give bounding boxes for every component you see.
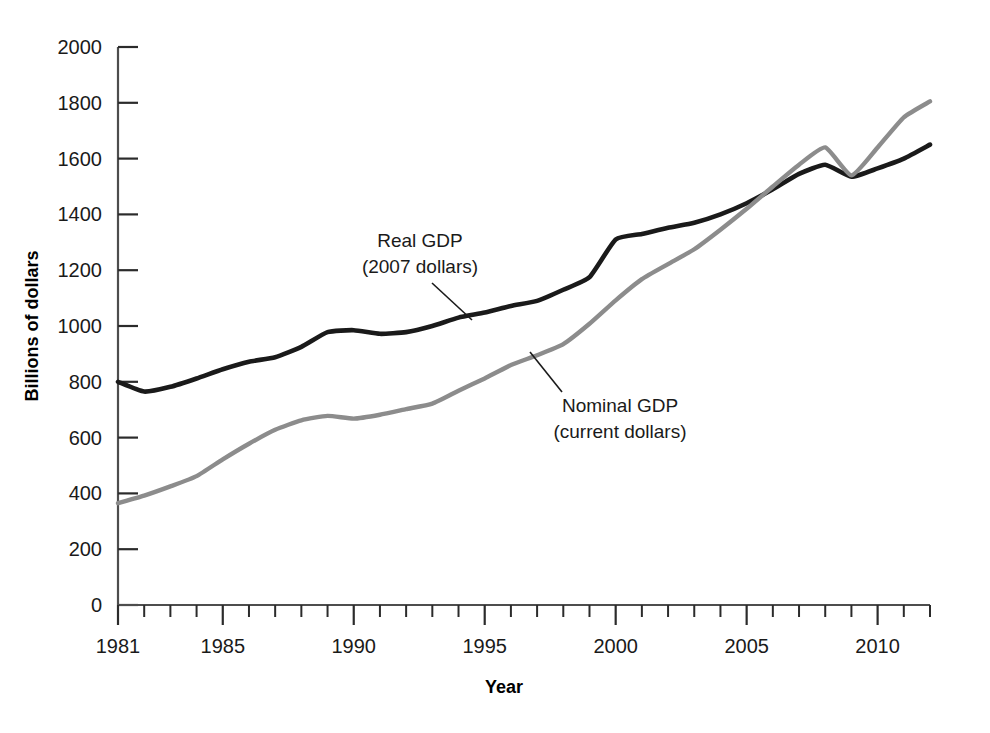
- annotation-real-gdp: Real GDP (2007 dollars): [362, 230, 478, 320]
- real-gdp-annotation-line1: Real GDP: [377, 230, 463, 251]
- nominal-gdp-annotation-line2: (current dollars): [553, 421, 686, 442]
- x-tick-label: 2010: [855, 635, 900, 657]
- chart-canvas: 0200400600800100012001400160018002000 19…: [0, 0, 990, 733]
- x-tick-label: 1995: [462, 635, 507, 657]
- y-tick-label: 600: [69, 427, 102, 449]
- x-axis-group: 1981198519901995200020052010: [96, 605, 930, 657]
- nominal-gdp-annotation-line1: Nominal GDP: [562, 395, 678, 416]
- y-tick-label: 1000: [58, 315, 103, 337]
- data-series-group: [118, 101, 930, 503]
- y-tick-label: 1200: [58, 259, 103, 281]
- x-tick-label: 1990: [331, 635, 376, 657]
- real-gdp-annotation-line2: (2007 dollars): [362, 256, 478, 277]
- x-tick-label: 1985: [201, 635, 246, 657]
- x-tick-marks: [118, 605, 930, 625]
- y-tick-label: 0: [91, 594, 102, 616]
- y-tick-label: 1800: [58, 92, 103, 114]
- real-gdp-leader-line: [432, 283, 472, 320]
- gdp-line-chart-figure: 0200400600800100012001400160018002000 19…: [0, 0, 990, 733]
- y-tick-label: 200: [69, 538, 102, 560]
- y-tick-label: 2000: [58, 36, 103, 58]
- y-tick-marks: [118, 47, 138, 605]
- annotation-nominal-gdp: Nominal GDP (current dollars): [530, 352, 687, 442]
- nominal-gdp-leader-line: [530, 352, 562, 392]
- series-line-real-gdp: [118, 145, 930, 392]
- y-axis-group: 0200400600800100012001400160018002000: [58, 36, 139, 616]
- y-tick-labels: 0200400600800100012001400160018002000: [58, 36, 103, 616]
- x-tick-label: 2005: [724, 635, 769, 657]
- x-axis-title: Year: [485, 677, 523, 697]
- x-tick-labels: 1981198519901995200020052010: [96, 635, 900, 657]
- y-axis-title: Billions of dollars: [22, 250, 42, 401]
- x-tick-label: 1981: [96, 635, 141, 657]
- y-tick-label: 1600: [58, 148, 103, 170]
- y-tick-label: 400: [69, 482, 102, 504]
- y-tick-label: 1400: [58, 203, 103, 225]
- y-tick-label: 800: [69, 371, 102, 393]
- x-tick-label: 2000: [593, 635, 638, 657]
